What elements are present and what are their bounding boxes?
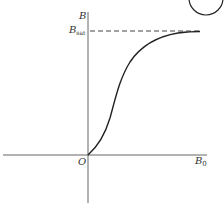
origin-label: O [78,156,86,167]
bsat-label-sub: sat [76,29,86,36]
y-axis-label: B [78,10,86,21]
x-axis-label-main: B [194,155,202,166]
cropped-circle-decoration [189,0,223,15]
bsat-label-main: B [68,24,76,35]
saturation-chart: B Bsat O B0 [0,0,224,210]
bsat-label: Bsat [68,24,86,36]
saturation-curve [88,32,200,156]
x-axis-label-sub: 0 [202,160,206,168]
x-axis-label: B0 [194,155,207,168]
